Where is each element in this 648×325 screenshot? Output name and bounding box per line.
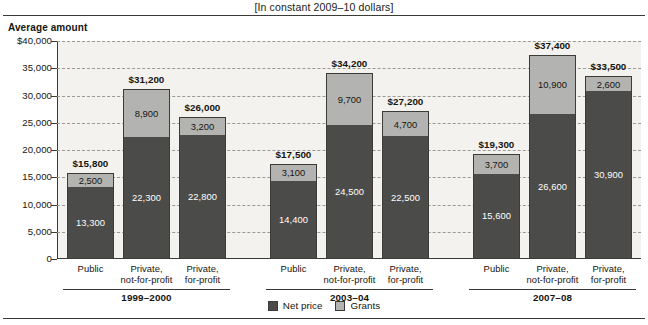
stacked-bar[interactable]: 2,60030,900 [585,76,632,259]
bar-segment-net-price[interactable]: 22,500 [382,136,429,259]
y-axis-tick-mark [51,232,57,233]
plot-area: 2,50013,300$15,8008,90022,300$31,2003,20… [57,41,641,259]
bar-segment-grants[interactable]: 3,700 [473,154,520,174]
stacked-bar[interactable]: 3,20022,800 [179,117,226,259]
y-axis-tick-label: 15,000 [0,171,52,182]
y-axis-tick-label: 0 [0,253,52,264]
bar-segment-grants[interactable]: 2,500 [67,173,114,187]
group-rule [469,289,636,290]
bar-total-label: $17,500 [262,149,325,160]
bar-total-label: $19,300 [465,139,528,150]
y-axis-tick-mark [51,68,57,69]
y-axis-tick-mark [51,123,57,124]
y-axis-tick-mark [51,259,57,260]
bar-segment-net-price[interactable]: 30,900 [585,91,632,259]
bar-segment-net-price[interactable]: 24,500 [326,125,373,259]
legend: Net price Grants [0,300,648,311]
y-axis-tick-mark [51,96,57,97]
category-label: Private,for-profit [373,264,438,285]
y-axis-tick-mark [51,177,57,178]
y-axis-title: Average amount [8,22,87,33]
legend-swatch-grants-icon [335,301,345,311]
bar-segment-grants[interactable]: 3,200 [179,117,226,134]
stacked-bar[interactable]: 8,90022,300 [123,89,170,259]
y-axis-tick-label: 5,000 [0,226,52,237]
legend-item-net-price[interactable]: Net price [268,300,323,311]
y-axis-tick-mark [51,150,57,151]
bottom-rule [3,318,645,319]
top-rule [3,15,645,16]
bar-total-label: $15,800 [59,158,122,169]
y-axis-tick-label: 10,000 [0,199,52,210]
bar-segment-grants[interactable]: 8,900 [123,89,170,138]
bar-segment-net-price[interactable]: 14,400 [270,181,317,259]
bar-segment-net-price[interactable]: 22,300 [123,137,170,259]
category-label: Private,for-profit [576,264,641,285]
y-axis-tick-label: 30,000 [0,90,52,101]
stacked-bar[interactable]: 3,70015,600 [473,154,520,259]
bar-total-label: $27,200 [374,96,437,107]
y-axis-tick-label: 20,000 [0,144,52,155]
bar-segment-grants[interactable]: 10,900 [529,55,576,114]
chart-page: [In constant 2009–10 dollars] Average am… [0,0,648,325]
bar-segment-grants[interactable]: 2,600 [585,76,632,90]
y-axis-tick-mark [51,205,57,206]
y-axis-tick-label: 35,000 [0,62,52,73]
stacked-bar[interactable]: 2,50013,300 [67,173,114,259]
bar-segment-net-price[interactable]: 15,600 [473,174,520,259]
y-axis-tick-mark [51,41,57,42]
stacked-bar[interactable]: 10,90026,600 [529,55,576,259]
group-rule [266,289,433,290]
stacked-bar[interactable]: 9,70024,500 [326,73,373,259]
bar-total-label: $26,000 [171,102,234,113]
bar-segment-net-price[interactable]: 22,800 [179,135,226,259]
bar-segment-net-price[interactable]: 13,300 [67,187,114,259]
bar-total-label: $33,500 [577,61,640,72]
legend-swatch-net-price-icon [268,301,278,311]
y-axis-tick-label: 25,000 [0,117,52,128]
group-rule [63,289,230,290]
bar-total-label: $34,200 [318,58,381,69]
stacked-bar[interactable]: 4,70022,500 [382,111,429,259]
bar-segment-grants[interactable]: 9,700 [326,73,373,126]
bar-total-label: $31,200 [115,74,178,85]
category-label: Private,for-profit [170,264,235,285]
legend-label-grants: Grants [350,300,380,311]
stacked-bar[interactable]: 3,10014,400 [270,164,317,259]
legend-item-grants[interactable]: Grants [335,300,380,311]
bar-total-label: $37,400 [521,40,584,51]
bar-segment-grants[interactable]: 3,100 [270,164,317,181]
bar-segment-net-price[interactable]: 26,600 [529,114,576,259]
y-axis-tick-label: $40,000 [0,35,52,46]
header-note: [In constant 2009–10 dollars] [0,0,648,15]
bar-segment-grants[interactable]: 4,700 [382,111,429,137]
legend-label-net-price: Net price [283,300,323,311]
